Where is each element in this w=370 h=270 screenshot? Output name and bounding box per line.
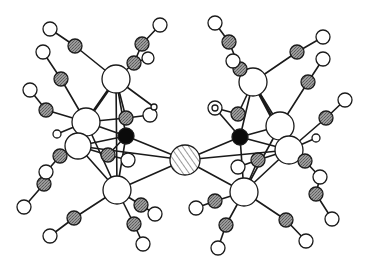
oxygen-atom-ol9 bbox=[121, 153, 135, 167]
metal-atom-ml1 bbox=[102, 65, 130, 93]
carbon-atom-cr11 bbox=[219, 218, 233, 232]
carbon-atom-cr3 bbox=[290, 45, 304, 59]
oxygen-atom-or8 bbox=[325, 212, 339, 226]
carbon-atom-cl6 bbox=[119, 111, 133, 125]
oxygen-atom-ol5 bbox=[142, 52, 154, 64]
oxygen-atom-or10 bbox=[189, 201, 203, 215]
carbon-atom-cl9 bbox=[101, 148, 115, 162]
carbon-atom-cl7 bbox=[53, 149, 67, 163]
bond-ML1-ML4 bbox=[116, 79, 117, 190]
hydride-atom-hl2 bbox=[53, 130, 61, 138]
carbon-atom-cr1 bbox=[222, 35, 236, 49]
oxygen-atom-or5 bbox=[338, 93, 352, 107]
bridging-atom-z1 bbox=[170, 145, 200, 175]
metal-atom-mr4 bbox=[230, 178, 258, 206]
oxygen-atom-or11 bbox=[211, 241, 225, 255]
hydride-atom-hl1 bbox=[151, 104, 157, 110]
carbon-atom-cr7 bbox=[298, 154, 312, 168]
oxygen-atom-ol10 bbox=[43, 229, 57, 243]
carbon-atom-cl1 bbox=[68, 39, 82, 53]
carbon-atom-cr6 bbox=[231, 107, 245, 121]
hydride-atom-hr1 bbox=[212, 105, 218, 111]
molecular-structure-diagram bbox=[0, 0, 370, 270]
oxygen-atom-or9 bbox=[231, 160, 245, 174]
oxygen-atom-ol11 bbox=[148, 207, 162, 221]
oxygen-atom-ol4 bbox=[153, 18, 167, 32]
oxygen-atom-or2 bbox=[226, 54, 240, 68]
carbon-atom-cr9 bbox=[251, 153, 265, 167]
interstitial-atom-xr bbox=[232, 129, 248, 145]
atoms-layer bbox=[17, 16, 352, 255]
oxygen-atom-or4 bbox=[316, 52, 330, 66]
carbon-atom-cr8 bbox=[309, 187, 323, 201]
oxygen-atom-or12 bbox=[299, 234, 313, 248]
carbon-atom-cl12 bbox=[127, 217, 141, 231]
oxygen-atom-ol12 bbox=[136, 237, 150, 251]
oxygen-atom-or1 bbox=[208, 16, 222, 30]
oxygen-atom-ol3 bbox=[23, 83, 37, 97]
metal-atom-ml3 bbox=[65, 133, 91, 159]
metal-atom-ml2 bbox=[72, 108, 100, 136]
hydride-atom-hr2 bbox=[312, 134, 320, 142]
metal-atom-ml4 bbox=[103, 176, 131, 204]
carbon-atom-cr12 bbox=[279, 213, 293, 227]
carbon-atom-cl10 bbox=[67, 211, 81, 225]
carbon-atom-cl3 bbox=[39, 103, 53, 117]
carbon-atom-cl5 bbox=[127, 56, 141, 70]
carbon-atom-cl2 bbox=[54, 72, 68, 86]
carbon-atom-cl4 bbox=[135, 37, 149, 51]
oxygen-atom-ol7 bbox=[39, 165, 53, 179]
carbon-atom-cr10 bbox=[208, 194, 222, 208]
oxygen-atom-ol1 bbox=[43, 22, 57, 36]
oxygen-atom-or7 bbox=[313, 170, 327, 184]
oxygen-atom-ol2 bbox=[36, 45, 50, 59]
molecule-canvas bbox=[0, 0, 370, 270]
oxygen-atom-or3 bbox=[316, 30, 330, 44]
carbon-atom-cr4 bbox=[301, 75, 315, 89]
carbon-atom-cl11 bbox=[134, 198, 148, 212]
carbon-atom-cr5 bbox=[319, 111, 333, 125]
interstitial-atom-xl bbox=[118, 128, 134, 144]
oxygen-atom-ol8 bbox=[17, 200, 31, 214]
